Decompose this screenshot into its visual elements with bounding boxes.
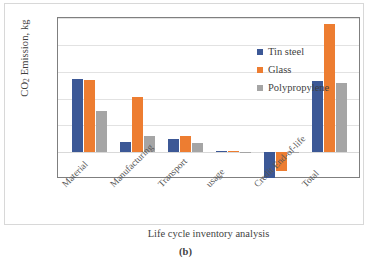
bar-group-material bbox=[72, 18, 112, 177]
legend-label-tin-steel: Tin steel bbox=[268, 46, 304, 57]
bar-usage-glass bbox=[228, 151, 239, 152]
figure-caption: (b) bbox=[0, 246, 371, 257]
legend-label-polypropylene: Polypropylene bbox=[268, 82, 329, 93]
bar-usage-tin-steel bbox=[216, 151, 227, 152]
x-axis-title: Life cycle inventory analysis bbox=[57, 228, 360, 239]
y-axis-title-subscript: 2 bbox=[22, 78, 31, 82]
legend-label-glass: Glass bbox=[268, 64, 291, 75]
bar-manufacturing-glass bbox=[132, 97, 143, 152]
bar-total-polypropylene bbox=[336, 83, 347, 152]
legend: Tin steel Glass Polypropylene bbox=[257, 44, 329, 98]
legend-swatch-icon-glass bbox=[257, 67, 263, 73]
bar-material-tin-steel bbox=[72, 79, 83, 153]
y-axis-title-prefix: CO bbox=[19, 82, 30, 97]
bar-material-glass bbox=[84, 80, 95, 152]
bar-group-usage bbox=[216, 18, 256, 177]
bar-manufacturing-tin-steel bbox=[120, 142, 131, 152]
legend-swatch-icon-tin-steel bbox=[257, 49, 263, 55]
bar-transport-polypropylene bbox=[192, 143, 203, 152]
legend-item-polypropylene: Polypropylene bbox=[257, 80, 329, 95]
legend-item-glass: Glass bbox=[257, 62, 329, 77]
legend-swatch-icon-polypropylene bbox=[257, 85, 263, 91]
y-axis-title-suffix: Emission, kg bbox=[19, 19, 30, 78]
bar-transport-tin-steel bbox=[168, 139, 179, 152]
bar-transport-glass bbox=[180, 136, 191, 153]
bar-usage-polypropylene bbox=[240, 152, 251, 153]
plot-area: 0.25 0.20 0.15 0.10 0.05 0.00 -0.05 bbox=[57, 17, 360, 178]
figure-container: CO2 Emission, kg 0.25 0.20 0.15 0.10 0.0… bbox=[0, 0, 371, 264]
legend-item-tin-steel: Tin steel bbox=[257, 44, 329, 59]
y-axis-title: CO2 Emission, kg bbox=[19, 0, 31, 118]
bar-group-transport bbox=[168, 18, 208, 177]
bar-material-polypropylene bbox=[96, 111, 107, 152]
